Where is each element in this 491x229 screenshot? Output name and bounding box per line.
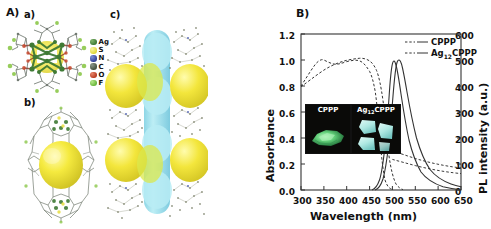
legend-label-cppp: CPPP (431, 37, 456, 47)
atom-label-c: C (99, 63, 104, 71)
crystal-green (306, 119, 350, 153)
legend-ag12cppp-tail: CPPP (452, 48, 477, 58)
subpanel-a-label: a) (24, 9, 35, 20)
atom-label-f: F (99, 79, 104, 87)
inset-caption-ag12cppp: Ag12CPPP (352, 106, 400, 115)
subpanel-c-label: c) (110, 9, 120, 20)
atom-label-s: S (99, 46, 104, 54)
atom-dot-n (90, 55, 97, 62)
inset-caption-cppp: CPPP (306, 106, 350, 114)
inset-cppp-text: CPPP (318, 106, 339, 114)
structure-c-packing (104, 22, 208, 222)
legend-ag12cppp-sub: 12 (444, 53, 452, 60)
panel-a-label: A) (6, 6, 19, 19)
series-cppp-pl-tail (392, 151, 461, 168)
structure-b-sphere-cluster (22, 106, 100, 224)
inset-photo-ag12cppp: Ag12CPPP (351, 104, 401, 154)
spectra-chart: Absorbance PL intensity (a.u.) Wavelengt… (255, 22, 491, 229)
atom-dot-c (90, 63, 97, 70)
crystals-cyan (352, 117, 400, 153)
structure-a-cluster (4, 20, 90, 94)
atom-dot-f (90, 80, 97, 87)
figure-root: A) a) b) c) B) (0, 0, 491, 229)
legend-ag12cppp-base: Ag (431, 48, 444, 58)
atom-dot-s (90, 47, 97, 54)
inset-ag12cppp-base: Ag (357, 106, 367, 114)
inset-photo-cppp: CPPP (305, 104, 351, 154)
inset-ag12cppp-tail: CPPP (374, 106, 395, 114)
panel-b-label: B) (296, 7, 309, 20)
atom-dot-ag (90, 39, 97, 46)
atom-dot-o (90, 72, 97, 79)
legend-cppp-text: CPPP (431, 37, 456, 47)
legend-label-ag12cppp: Ag12CPPP (431, 48, 477, 60)
